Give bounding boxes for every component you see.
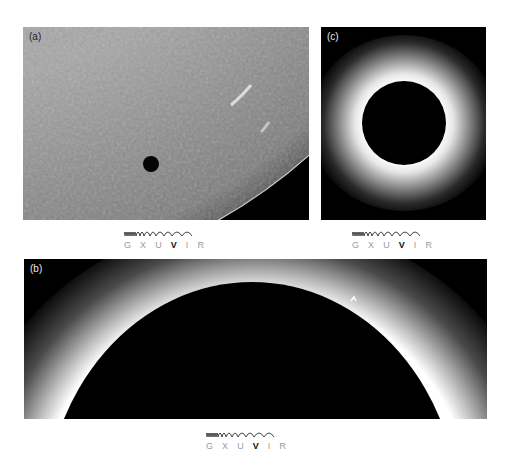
image-panel-a: (a) <box>23 27 309 220</box>
panel-label-b: (b) <box>30 263 42 274</box>
band-u: U <box>155 240 162 250</box>
band-i: I <box>268 441 271 451</box>
band-v: V <box>253 441 259 451</box>
wave-icon <box>206 427 286 441</box>
sun-surface-image <box>23 27 309 220</box>
panel-label-a: (a) <box>29 31 41 42</box>
eclipse-limb-image <box>24 259 487 419</box>
wave-icon <box>124 226 204 240</box>
band-r: R <box>197 240 204 250</box>
band-i: I <box>414 240 417 250</box>
wavelength-legend-a: G X U V I R <box>124 226 204 254</box>
corona-image <box>321 27 486 220</box>
image-panel-c: (c) <box>321 27 486 220</box>
wavelength-legend-b: G X U V I R <box>206 427 286 455</box>
band-x: X <box>222 441 228 451</box>
band-v: V <box>171 240 177 250</box>
band-r: R <box>425 240 432 250</box>
wave-icon <box>352 226 432 240</box>
band-i: I <box>186 240 189 250</box>
band-x: X <box>140 240 146 250</box>
band-v: V <box>399 240 405 250</box>
band-u: U <box>237 441 244 451</box>
band-u: U <box>383 240 390 250</box>
band-g: G <box>352 240 359 250</box>
band-r: R <box>279 441 286 451</box>
band-g: G <box>124 240 131 250</box>
band-g: G <box>206 441 213 451</box>
band-x: X <box>368 240 374 250</box>
image-panel-b: (b) <box>24 259 487 419</box>
panel-label-c: (c) <box>327 31 339 42</box>
wavelength-legend-c: G X U V I R <box>352 226 432 254</box>
moon-disc <box>362 81 446 165</box>
transit-disc <box>143 156 159 172</box>
